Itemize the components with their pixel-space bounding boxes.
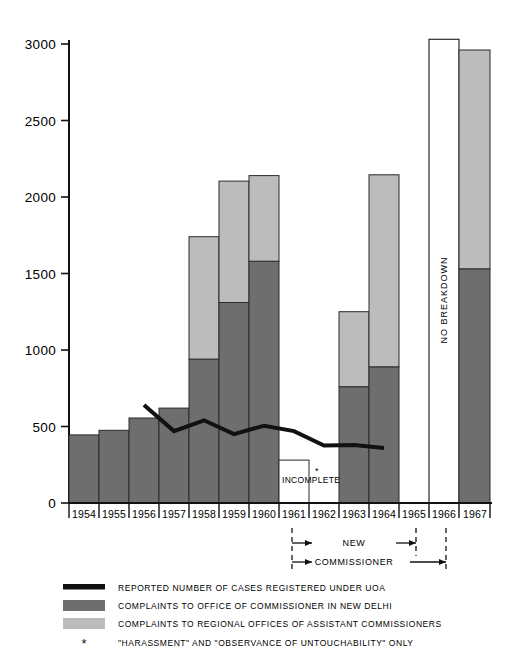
bar-dark-1967 [459, 269, 490, 503]
y-tick-label: 2000 [25, 190, 56, 205]
legend-swatch-light [63, 618, 105, 629]
chart-figure: 3000 2500 2000 1500 1000 500 0 [0, 0, 505, 654]
bar-light-1967 [459, 50, 490, 269]
bar-light-1959 [219, 181, 249, 302]
legend-label: COMPLAINTS TO OFFICE OF COMMISSIONER IN … [118, 601, 392, 611]
x-tick-label: 1961 [282, 508, 306, 520]
x-tick-label: 1960 [252, 508, 276, 520]
legend-swatch-line [63, 584, 105, 590]
bar-light-1964 [369, 175, 399, 367]
x-tick-label: 1955 [102, 508, 126, 520]
y-tick-label: 2500 [25, 114, 56, 129]
bar-dark-1964 [369, 367, 399, 503]
legend-swatch-asterisk: * [81, 636, 86, 651]
x-tick-label: 1959 [222, 508, 246, 520]
annotation-commissioner: COMMISSIONER [315, 557, 394, 567]
legend-swatch-dark [63, 600, 105, 611]
bar-dark-1958 [189, 359, 219, 503]
x-tick-label: 1965 [402, 508, 426, 520]
x-tick-label: 1956 [132, 508, 156, 520]
x-tick-label: 1966 [432, 508, 456, 520]
y-tick-label: 0 [48, 496, 56, 511]
y-tick-label: 1000 [25, 343, 56, 358]
x-tick-label: 1963 [342, 508, 366, 520]
bar-light-1960 [249, 176, 279, 262]
bar-dark-1954 [69, 435, 99, 503]
legend-item-light: COMPLAINTS TO REGIONAL OFFICES OF ASSIST… [63, 618, 442, 629]
bar-light-1963 [339, 312, 369, 387]
bar-dark-1956 [129, 418, 159, 503]
x-tick-label: 1957 [162, 508, 186, 520]
legend-label: "HARASSMENT" AND "OBSERVANCE OF UNTOUCHA… [118, 638, 414, 648]
x-tick-label: 1954 [72, 508, 96, 520]
x-tick-label: 1964 [372, 508, 396, 520]
annotation-no-breakdown: NO BREAKDOWN [439, 256, 449, 343]
legend-label: REPORTED NUMBER OF CASES REGISTERED UNDE… [118, 583, 385, 593]
bar-light-1958 [189, 237, 219, 359]
legend-label: COMPLAINTS TO REGIONAL OFFICES OF ASSIST… [118, 619, 442, 629]
y-tick-label: 3000 [25, 37, 56, 52]
annotation-asterisk: * [315, 466, 319, 476]
x-tick-label: 1967 [463, 508, 487, 520]
y-tick-label: 500 [33, 420, 56, 435]
bar-dark-1959 [219, 303, 249, 504]
bar-dark-1960 [249, 261, 279, 503]
annotation-incomplete: INCOMPLETE [282, 475, 340, 485]
y-tick-label: 1500 [25, 267, 56, 282]
annotation-new: NEW [343, 538, 366, 548]
x-tick-label: 1962 [312, 508, 336, 520]
bar-dark-1955 [99, 430, 129, 503]
x-tick-label: 1958 [192, 508, 216, 520]
